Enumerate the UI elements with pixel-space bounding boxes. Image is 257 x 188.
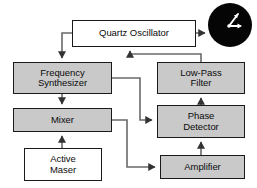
clock-hand-short-tip-icon [238,24,243,29]
node-frequency-synthesizer[interactable]: Frequency Synthesizer [13,62,112,94]
clock-hands-icon [208,3,252,47]
node-label-line: Detector [183,122,219,133]
node-label-line: Active [50,154,76,165]
connector-quartz-to-synthesizer [62,33,72,58]
node-amplifier[interactable]: Amplifier [160,155,245,179]
node-label-line: Maser [50,165,76,176]
block-diagram: Quartz Oscillator Frequency Synthesizer … [0,0,257,188]
node-active-maser[interactable]: Active Maser [24,148,102,181]
connector-synthesizer-to-phase-detector [112,78,152,120]
node-quartz-oscillator[interactable]: Quartz Oscillator [72,20,196,47]
node-label-line: Quartz Oscillator [99,28,169,39]
node-label-line: Filter [191,78,212,89]
clock-output-icon [208,3,252,47]
connector-mixer-to-amplifier [112,120,155,167]
node-low-pass-filter[interactable]: Low-Pass Filter [157,62,245,94]
node-label-line: Phase [188,111,215,122]
node-phase-detector[interactable]: Phase Detector [157,105,245,138]
node-label-line: Mixer [51,115,74,126]
node-mixer[interactable]: Mixer [13,108,112,132]
node-label-line: Amplifier [184,162,221,173]
clock-center-icon [227,24,231,28]
connector-lowpass-to-quartz [130,51,201,62]
node-label-line: Synthesizer [38,78,87,89]
